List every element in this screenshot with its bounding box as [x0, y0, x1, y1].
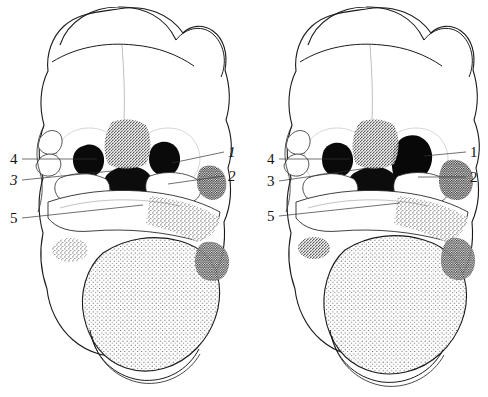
callout-label-5: 5 — [10, 210, 18, 226]
left-median-nasal-shading — [105, 120, 151, 169]
left-nasal-pit-right — [149, 142, 180, 176]
left-hyoid-blotch — [52, 238, 88, 262]
callout-label-4: 4 — [10, 151, 18, 167]
callout-label-2: 2 — [470, 169, 478, 185]
callout-label-4: 4 — [267, 151, 275, 167]
anatomical-illustration-svg: 1234512345 — [0, 0, 488, 397]
left-embryo-head — [36, 7, 231, 383]
callout-label-1: 1 — [228, 144, 236, 160]
callout-label-2: 2 — [228, 168, 236, 184]
callout-label-5: 5 — [267, 208, 275, 224]
callout-label-1: 1 — [470, 144, 478, 160]
right-nasal-pit-left — [322, 143, 353, 177]
right-hyoid-blotch — [298, 237, 330, 259]
right-embryo-head — [284, 7, 479, 386]
callout-label-3: 3 — [267, 173, 275, 189]
illustration-plate: 1234512345 — [0, 0, 488, 397]
right-median-nasal-shading — [353, 120, 399, 169]
callout-label-3: 3 — [9, 172, 18, 188]
